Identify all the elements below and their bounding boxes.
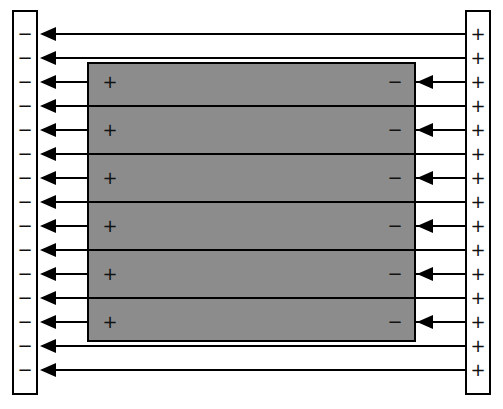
field-diagram: −+−+−++−−+−++−−+−++−−+−++−−+−++−−+−++−−+… <box>0 0 503 409</box>
conductor-minus-sign: − <box>387 311 402 332</box>
minus-sign: − <box>17 23 32 44</box>
minus-sign: − <box>17 143 32 164</box>
minus-sign: − <box>17 287 32 308</box>
plus-sign: + <box>470 95 485 116</box>
minus-sign: − <box>17 71 32 92</box>
minus-sign: − <box>17 215 32 236</box>
conductor-plus-sign: + <box>102 167 117 188</box>
plus-sign: + <box>470 335 485 356</box>
plus-sign: + <box>470 23 485 44</box>
conductor-plus-sign: + <box>102 311 117 332</box>
plus-sign: + <box>470 287 485 308</box>
plus-sign: + <box>470 47 485 68</box>
minus-sign: − <box>17 359 32 380</box>
plus-sign: + <box>470 215 485 236</box>
minus-sign: − <box>17 263 32 284</box>
plus-sign: + <box>470 239 485 260</box>
conductor-plus-sign: + <box>102 215 117 236</box>
conductor-minus-sign: − <box>387 167 402 188</box>
conductor-plus-sign: + <box>102 71 117 92</box>
minus-sign: − <box>17 239 32 260</box>
plus-sign: + <box>470 167 485 188</box>
plus-sign: + <box>470 191 485 212</box>
minus-sign: − <box>17 47 32 68</box>
minus-sign: − <box>17 167 32 188</box>
conductor-plus-sign: + <box>102 119 117 140</box>
conductor-minus-sign: − <box>387 215 402 236</box>
minus-sign: − <box>17 191 32 212</box>
conductor-minus-sign: − <box>387 263 402 284</box>
plus-sign: + <box>470 119 485 140</box>
minus-sign: − <box>17 119 32 140</box>
minus-sign: − <box>17 311 32 332</box>
conductor-minus-sign: − <box>387 71 402 92</box>
conductor-minus-sign: − <box>387 119 402 140</box>
plus-sign: + <box>470 263 485 284</box>
minus-sign: − <box>17 335 32 356</box>
conductor-plus-sign: + <box>102 263 117 284</box>
plus-sign: + <box>470 359 485 380</box>
plus-sign: + <box>470 71 485 92</box>
minus-sign: − <box>17 95 32 116</box>
plus-sign: + <box>470 143 485 164</box>
plus-sign: + <box>470 311 485 332</box>
